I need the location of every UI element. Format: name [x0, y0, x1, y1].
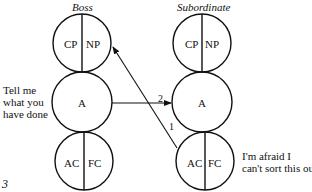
subordinate-a-label: A: [198, 97, 206, 109]
subordinate-np-label: NP: [205, 38, 219, 50]
transaction-label-1: 1: [169, 121, 174, 133]
boss-title: Boss: [72, 1, 93, 13]
subordinate-fc-label: FC: [208, 157, 221, 169]
boss-np-label: NP: [86, 38, 100, 50]
boss-speech: Tell me what you have done: [3, 84, 48, 120]
subordinate-ac-label: AC: [187, 157, 202, 169]
boss-cp-label: CP: [64, 38, 77, 50]
boss-ac-label: AC: [64, 157, 79, 169]
boss-fc-label: FC: [88, 157, 101, 169]
subordinate-cp-label: CP: [185, 38, 198, 50]
transaction-label-2: 2: [158, 93, 163, 105]
subordinate-title: Subordinate: [177, 1, 230, 13]
boss-a-label: A: [78, 97, 86, 109]
subordinate-speech: I'm afraid I can't sort this out: [242, 150, 312, 174]
transaction-arrow-1: [113, 47, 177, 148]
figure-number: 3: [2, 178, 8, 190]
